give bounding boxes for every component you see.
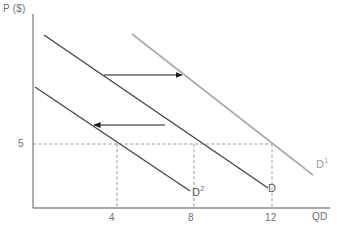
curve-label-d1-superscript: 1 <box>324 157 328 164</box>
demand-curve-d1 <box>132 34 313 175</box>
plot-area <box>0 0 339 231</box>
curve-label-d2-text: D <box>192 186 200 198</box>
x-tick-label-8: 8 <box>188 212 194 223</box>
curve-label-d2: D2 <box>192 186 204 198</box>
curve-label-d-text: D <box>268 182 276 194</box>
curve-label-d2-superscript: 2 <box>200 185 204 192</box>
demand-shift-diagram: P ($) QD 5 4 8 12 D D1 D2 <box>0 0 339 231</box>
curve-label-d1-text: D <box>316 158 324 170</box>
demand-curve-d2 <box>35 87 190 191</box>
x-axis-title: QD <box>312 211 327 222</box>
demand-curve-d <box>44 35 268 188</box>
y-axis-title: P ($) <box>3 3 26 14</box>
y-tick-label-5: 5 <box>18 138 24 149</box>
curve-label-d1: D1 <box>316 158 328 170</box>
x-tick-label-4: 4 <box>109 212 115 223</box>
x-tick-label-12: 12 <box>265 212 277 223</box>
curve-label-d: D <box>268 182 276 194</box>
